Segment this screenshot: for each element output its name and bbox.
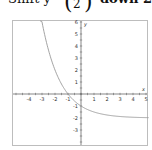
x-tick-label: 5: [144, 96, 147, 102]
y-tick-label: 1: [75, 79, 78, 85]
x-tick-label: 2: [105, 96, 108, 102]
x-axis-label: x: [141, 86, 145, 92]
y-tick-label: 4: [75, 43, 78, 49]
function-graph: -4-3-2-112345-3-2-1123456xy: [0, 0, 152, 150]
y-tick-label: 5: [75, 31, 78, 37]
y-tick-label: 6: [75, 19, 78, 25]
x-tick-label: -3: [40, 96, 45, 102]
x-tick-label: 1: [92, 96, 95, 102]
x-tick-label: -4: [27, 96, 32, 102]
y-tick-label: -3: [73, 127, 78, 133]
y-tick-label: 2: [75, 67, 78, 73]
x-tick-label: 3: [118, 96, 121, 102]
y-tick-label: 3: [75, 55, 78, 61]
x-tick-label: -2: [53, 96, 58, 102]
plot-frame: [13, 21, 148, 146]
x-tick-label: 4: [131, 96, 134, 102]
x-tick-label: -1: [66, 96, 71, 102]
y-tick-label: -2: [73, 115, 78, 121]
